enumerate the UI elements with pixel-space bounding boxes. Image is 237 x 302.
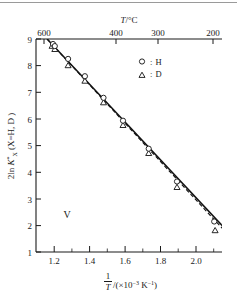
x-axis-title-numerator: 1	[106, 271, 111, 281]
data-point-D	[174, 184, 180, 189]
bottom-axis-tick-labels: 1.2 1.4 1.6 1.8 2.0	[49, 256, 203, 266]
legend-separator-D: :	[150, 69, 152, 79]
y-tick-label-7: 7	[28, 88, 33, 98]
data-point-H	[66, 56, 71, 61]
y-axis-title-prefix: 2ln	[6, 166, 16, 180]
top-axis-title: T/°C	[120, 15, 137, 25]
data-layer	[47, 39, 222, 233]
y-tick-label-6: 6	[28, 115, 33, 125]
y-tick-label-3: 3	[28, 195, 33, 205]
legend-circle-icon	[139, 59, 144, 64]
x-tick-label-2-0: 2.0	[190, 256, 202, 266]
data-point-H	[146, 146, 151, 151]
y-axis-title: 2ln K*X (X=H, D )	[6, 113, 18, 180]
x-tick-label-1-8: 1.8	[155, 256, 167, 266]
data-point-H	[120, 118, 125, 123]
top-tick-label-600: 600	[37, 28, 51, 38]
y-tick-label-1: 1	[28, 248, 33, 258]
x-tick-label-1-2: 1.2	[49, 256, 60, 266]
y-tick-label-8: 8	[28, 61, 33, 71]
x-axis-title-rest-text: /(×10	[113, 280, 133, 290]
bottom-axis-major-ticks	[54, 246, 196, 252]
left-axis-ticks	[36, 39, 41, 252]
top-axis-ticks	[44, 39, 213, 44]
arrhenius-plot: T/°C 600 400 300 200	[0, 0, 237, 302]
legend: :H :D	[139, 57, 162, 80]
legend-label-D: :D	[150, 69, 162, 79]
data-point-D	[212, 228, 218, 233]
data-point-H	[52, 44, 57, 49]
x-tick-label-1-4: 1.4	[84, 256, 96, 266]
y-axis-title-suffix: (X=H, D )	[6, 113, 16, 153]
y-tick-label-2: 2	[28, 221, 33, 231]
top-tick-label-400: 400	[109, 28, 123, 38]
x-tick-label-1-6: 1.6	[119, 256, 131, 266]
data-point-H	[82, 74, 87, 79]
legend-separator-H: :	[150, 57, 152, 67]
legend-text-D: D	[155, 69, 161, 79]
fit-line-H	[47, 39, 222, 226]
x-axis-title: 1 T /(×10−3 K−1)	[104, 271, 157, 292]
top-axis-title-unit: /°C	[125, 15, 137, 25]
top-tick-label-300: 300	[151, 28, 165, 38]
top-tick-label-200: 200	[206, 28, 220, 38]
legend-label-H: :H	[150, 57, 162, 67]
legend-triangle-icon	[139, 72, 145, 77]
series-D-markers	[49, 43, 218, 233]
top-axis-tick-labels: 600 400 300 200	[37, 28, 220, 38]
data-point-H	[212, 219, 217, 224]
x-axis-title-rest: /(×10−3 K−1)	[113, 280, 157, 291]
left-axis-tick-labels: 9 8 7 6 5 4 3 2 1	[28, 35, 33, 258]
legend-text-H: H	[155, 57, 161, 67]
y-tick-label-9: 9	[28, 35, 33, 45]
y-tick-label-4: 4	[28, 168, 33, 178]
data-point-H	[101, 95, 106, 100]
plot-annotation-V: V	[63, 209, 71, 220]
y-tick-label-5: 5	[28, 141, 33, 151]
x-axis-title-close: )	[154, 280, 157, 290]
x-axis-title-denominator: T	[105, 282, 111, 292]
data-point-H	[174, 179, 179, 184]
figure-container: T/°C 600 400 300 200	[0, 0, 237, 302]
